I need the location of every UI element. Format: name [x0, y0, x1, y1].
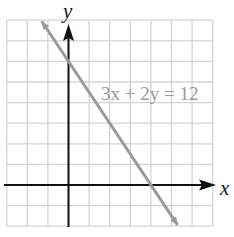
- axes: x y: [4, 0, 230, 227]
- y-axis-label: y: [61, 0, 73, 23]
- equation-label: 3x + 2y = 12: [101, 83, 198, 104]
- coordinate-plane: x y 3x + 2y = 12: [0, 0, 234, 237]
- x-axis-label: x: [219, 176, 230, 200]
